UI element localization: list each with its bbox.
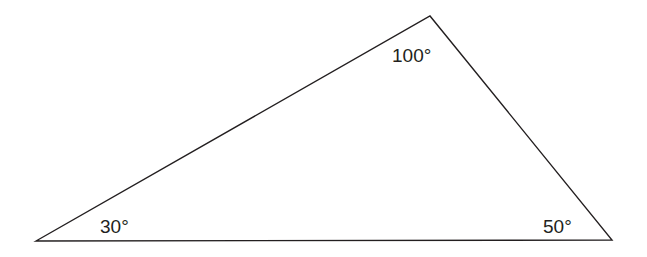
angle-label-left: 30°: [100, 216, 129, 237]
angle-label-apex: 100°: [392, 45, 431, 66]
angle-label-right: 50°: [543, 216, 572, 237]
triangle-diagram: 30° 100° 50°: [0, 0, 647, 257]
triangle-shape: [36, 16, 612, 241]
